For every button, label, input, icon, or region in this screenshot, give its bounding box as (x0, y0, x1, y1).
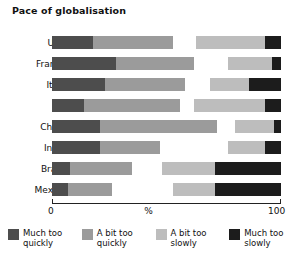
legend-swatch-icon (156, 229, 167, 240)
bar-row-france: France (0, 57, 297, 70)
bar-segment-a-bit-too-slowly (162, 162, 215, 175)
bar-track (52, 78, 281, 91)
bar-segment-a-bit-too-quickly (105, 78, 185, 91)
bar-segment-much-too-slowly (272, 57, 281, 70)
bar-row-italy: Italy (0, 78, 297, 91)
bar-row-china: China (0, 120, 297, 133)
legend-label: Much too slowly (244, 228, 283, 248)
bar-segment-a-bit-too-slowly (173, 183, 214, 196)
bar-row-usa: USA (0, 36, 297, 49)
bar-segment-a-bit-too-quickly (100, 120, 217, 133)
bar-track (52, 120, 281, 133)
legend-swatch-icon (229, 229, 240, 240)
bar-segment-much-too-slowly (215, 183, 281, 196)
bar-segment-a-bit-too-slowly (228, 141, 265, 154)
bar-track (52, 36, 281, 49)
chart-title: Pace of globalisation (12, 5, 126, 16)
legend-label: A bit too quickly (97, 228, 133, 248)
chart-container: Pace of globalisation USAFranceItalyUKCh… (0, 0, 297, 256)
bar-segment-much-too-quickly (52, 78, 105, 91)
bar-segment-much-too-slowly (265, 36, 281, 49)
bar-row-uk: UK (0, 99, 297, 112)
legend-swatch-icon (8, 229, 19, 240)
bar-segment-much-too-quickly (52, 36, 93, 49)
bar-segment-a-bit-too-slowly (196, 36, 265, 49)
bar-segment-much-too-quickly (52, 162, 70, 175)
plot-area: USAFranceItalyUKChinaIndiaBrazilMexico (0, 30, 297, 202)
bar-segment-a-bit-too-quickly (70, 162, 132, 175)
chart-legend: Much too quicklyA bit too quicklyA bit t… (8, 228, 297, 254)
bar-segment-much-too-slowly (265, 99, 281, 112)
bar-segment-much-too-quickly (52, 57, 116, 70)
legend-item-1[interactable]: A bit too quickly (82, 228, 150, 248)
bar-segment-a-bit-too-slowly (210, 78, 249, 91)
bar-track (52, 162, 281, 175)
bar-track (52, 57, 281, 70)
bar-segment-a-bit-too-slowly (194, 99, 265, 112)
legend-swatch-icon (82, 229, 93, 240)
bar-segment-a-bit-too-slowly (228, 57, 272, 70)
bar-row-india: India (0, 141, 297, 154)
legend-item-0[interactable]: Much too quickly (8, 228, 76, 248)
axis-tick-min (52, 199, 53, 203)
x-axis: 0 100 % (0, 203, 297, 225)
bar-segment-much-too-slowly (274, 120, 281, 133)
bar-segment-much-too-slowly (249, 78, 281, 91)
bar-track (52, 99, 281, 112)
legend-item-3[interactable]: Much too slowly (229, 228, 297, 248)
bar-segment-much-too-quickly (52, 120, 100, 133)
bar-segment-a-bit-too-quickly (68, 183, 112, 196)
legend-label: Much too quickly (23, 228, 62, 248)
bar-segment-a-bit-too-quickly (84, 99, 180, 112)
bar-row-brazil: Brazil (0, 162, 297, 175)
bar-segment-a-bit-too-quickly (93, 36, 173, 49)
bar-segment-much-too-quickly (52, 183, 68, 196)
bar-row-mexico: Mexico (0, 183, 297, 196)
bar-segment-a-bit-too-slowly (235, 120, 274, 133)
bar-segment-a-bit-too-quickly (116, 57, 194, 70)
bar-segment-much-too-quickly (52, 141, 100, 154)
axis-tick-max (280, 199, 281, 203)
legend-item-2[interactable]: A bit too slowly (156, 228, 224, 248)
bar-segment-a-bit-too-quickly (100, 141, 160, 154)
bar-segment-much-too-slowly (265, 141, 281, 154)
bar-track (52, 141, 281, 154)
bar-segment-much-too-slowly (215, 162, 281, 175)
axis-unit-label: % (0, 206, 297, 216)
bar-track (52, 183, 281, 196)
axis-line (52, 203, 281, 204)
bar-segment-much-too-quickly (52, 99, 84, 112)
legend-label: A bit too slowly (171, 228, 207, 248)
